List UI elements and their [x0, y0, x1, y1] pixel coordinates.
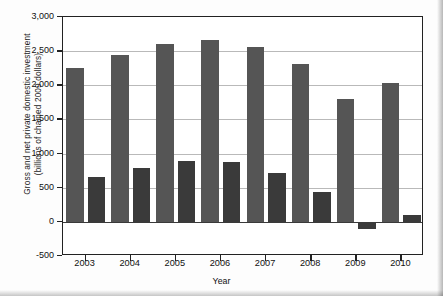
x-tick-label-2010: 2010 [370, 258, 430, 268]
x-axis-title: Year [0, 276, 443, 286]
chart-figure: Gross and net private domestic investmen… [0, 0, 443, 296]
x-axis: 20032004200520062007200820092010 [0, 0, 443, 296]
